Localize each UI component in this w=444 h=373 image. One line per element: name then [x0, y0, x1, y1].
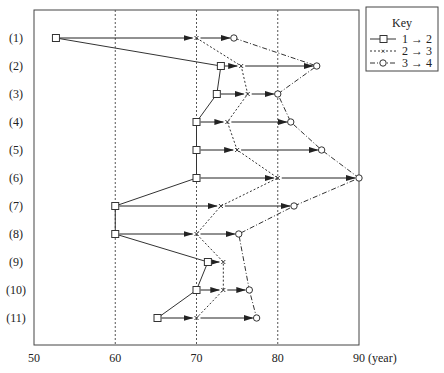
circle-marker-icon: [356, 175, 362, 181]
row-labels: (1)(2)(3)(4)(5)(6)(7)(8)(9)(10)(11): [6, 31, 26, 325]
row-label: (5): [9, 143, 23, 157]
circle-marker-icon: [246, 287, 252, 293]
row-label: (10): [6, 283, 26, 297]
square-marker-icon: [193, 175, 200, 182]
circle-marker-icon: [275, 91, 281, 97]
x-tick-label: 60: [109, 351, 121, 365]
square-marker-icon: [380, 36, 387, 43]
row-arrows: [60, 38, 355, 318]
square-marker-icon: [112, 203, 119, 210]
x-axis-tick-labels: 5060708090 (year): [28, 351, 397, 365]
row-label: (2): [9, 59, 23, 73]
circle-marker-icon: [253, 315, 259, 321]
x-marker-icon: [239, 64, 243, 68]
square-marker-icon: [204, 259, 211, 266]
row-label: (11): [6, 311, 26, 325]
circle-marker-icon: [314, 63, 320, 69]
circle-marker-icon: [236, 231, 242, 237]
x-tick-label: 50: [28, 351, 40, 365]
legend: Key 1 → 2 × 2 → 3 3 → 4: [366, 7, 438, 71]
x-marker-icon: [219, 204, 223, 208]
square-marker-icon: [112, 231, 119, 238]
square-marker-icon: [193, 287, 200, 294]
x-marker-icon: [221, 260, 225, 264]
circle-marker-icon: [291, 203, 297, 209]
row-label: (4): [9, 115, 23, 129]
x-tick-label: 80: [272, 351, 284, 365]
row-label: (1): [9, 31, 23, 45]
chart: (1)(2)(3)(4)(5)(6)(7)(8)(9)(10)(11) 5060…: [0, 0, 444, 373]
circle-marker-icon: [380, 60, 386, 66]
x-tick-label: 70: [191, 351, 203, 365]
square-marker-icon: [52, 35, 59, 42]
row-label: (8): [9, 227, 23, 241]
circle-marker-icon: [231, 35, 237, 41]
row-label: (3): [9, 87, 23, 101]
square-marker-icon: [193, 147, 200, 154]
x-marker-icon: ×: [380, 46, 385, 56]
row-label: (9): [9, 255, 23, 269]
square-marker-icon: [213, 91, 220, 98]
row-label: (7): [9, 199, 23, 213]
square-marker-icon: [193, 119, 200, 126]
row-label: (6): [9, 171, 23, 185]
square-marker-icon: [154, 315, 161, 322]
legend-title: Key: [392, 16, 412, 30]
x-tick-label: 90 (year): [353, 351, 397, 365]
circle-marker-icon: [318, 147, 324, 153]
legend-label-3: 3 → 4: [402, 56, 432, 70]
circle-marker-icon: [288, 119, 294, 125]
square-marker-icon: [217, 63, 224, 70]
